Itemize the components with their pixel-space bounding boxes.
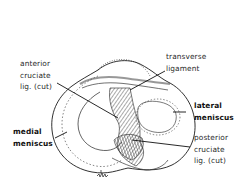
label-medial-meniscus: medial meniscus [13, 126, 53, 149]
label-transverse-ligament: transverse ligament [166, 51, 206, 74]
label-lateral-meniscus: lateral meniscus [194, 100, 234, 123]
meniscus-diagram: anterior cruciate lig. (cut) transverse … [0, 0, 248, 193]
label-posterior-cruciate-ligament: posterior cruciate lig. (cut) [194, 132, 228, 167]
label-anterior-cruciate-ligament: anterior cruciate lig. (cut) [20, 58, 52, 93]
